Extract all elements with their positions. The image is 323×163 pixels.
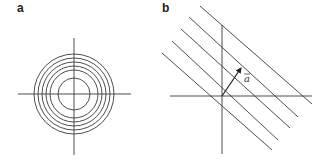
panel-b-parallel-lines [162, 6, 312, 154]
level-line [162, 53, 272, 150]
vector-a-label: a [244, 73, 250, 84]
panel-a-concentric-circles [18, 38, 131, 155]
vector-a-arrow-icon [222, 68, 241, 96]
diagram-canvas: a [0, 0, 323, 163]
level-line [189, 17, 298, 117]
level-line [200, 6, 312, 104]
level-line [172, 41, 278, 140]
level-line [181, 29, 290, 128]
